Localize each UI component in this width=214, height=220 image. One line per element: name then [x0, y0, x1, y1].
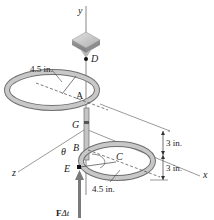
upper-spacing-label: 3 in. — [166, 138, 182, 148]
point-a-label: A — [76, 90, 84, 101]
top-ring — [7, 72, 97, 108]
dim-arrow-top — [161, 131, 165, 135]
point-e-label: E — [63, 163, 70, 174]
x-axis-label: x — [202, 169, 208, 180]
x-axis-upper — [100, 104, 170, 131]
z-axis-label: z — [11, 167, 16, 178]
top-radius-label: 4.5 in. — [30, 64, 53, 74]
lower-spacing-label: 3 in. — [166, 163, 182, 173]
bottom-radius-line — [80, 162, 116, 167]
point-d-label: D — [90, 53, 99, 64]
impulse-label: FΔt — [56, 208, 70, 218]
point-e — [77, 165, 81, 169]
impulse-dt: Δt — [61, 208, 70, 218]
y-axis-label: y — [77, 5, 83, 16]
point-g-marker — [84, 121, 89, 124]
rigid-body-diagram: y D 4.5 in. A G θ B C E z x 3 in. 3 in. … — [0, 0, 214, 220]
theta-arc — [92, 154, 105, 168]
dim-arrow-mid-up — [161, 151, 165, 155]
point-b-label: B — [73, 142, 79, 153]
point-d — [84, 57, 88, 61]
top-radius-line — [62, 76, 76, 94]
theta-label: θ — [61, 146, 66, 157]
bottom-radius-label: 4.5 in. — [92, 184, 115, 194]
point-c-label: C — [116, 151, 123, 162]
impulse-arrow-shaft — [78, 178, 81, 218]
point-g-label: G — [72, 119, 79, 130]
dim-arrow-mid-down — [161, 155, 165, 159]
dim-arrow-bottom — [161, 176, 165, 180]
impulse-arrow-head — [75, 170, 84, 180]
